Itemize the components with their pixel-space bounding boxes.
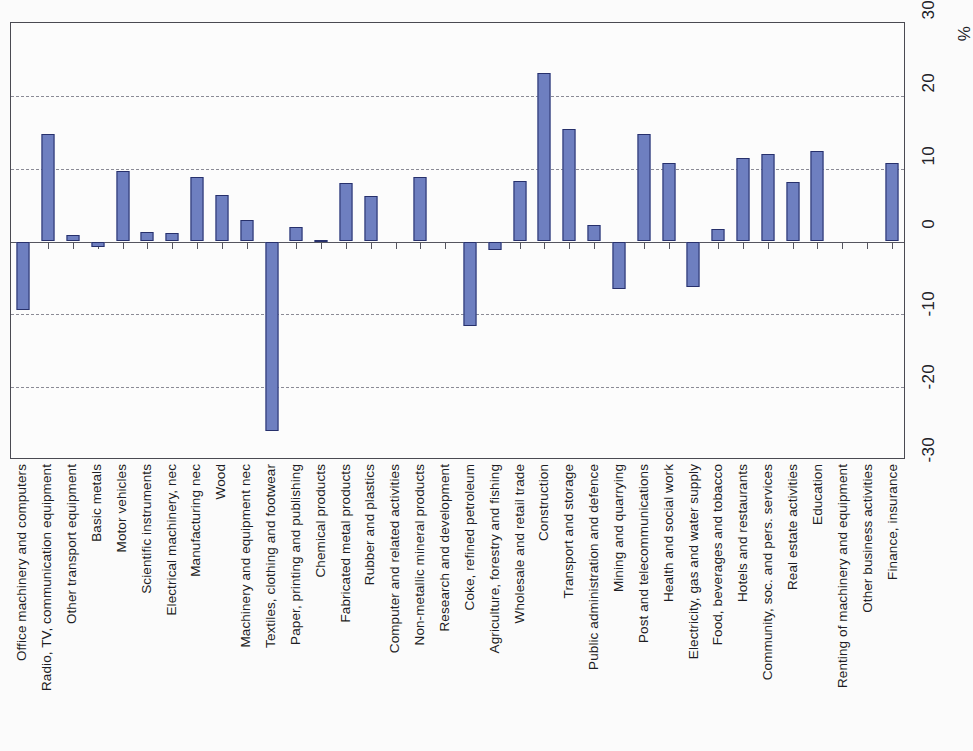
category-label: Transport and storage [563,464,577,598]
bar-slot [160,23,185,458]
x-axis-tick [445,242,446,249]
category-slot: Wood [209,462,234,751]
x-axis-tick [296,242,297,249]
x-axis-category-labels: Office machinery and computersRadio, TV,… [10,462,905,751]
category-label: Motor vehicles [115,464,129,552]
bar-slot [61,23,86,458]
bar [215,195,228,242]
category-slot: Chemical products [308,462,333,751]
bar-slot [408,23,433,458]
category-slot: Paper, printing and publishing [283,462,308,751]
bar-slot [507,23,532,458]
y-tick-label: 10 [919,146,959,166]
category-label: Post and telecommunications [637,464,651,643]
bar [166,233,179,241]
bar-slot [805,23,830,458]
bar-slot [135,23,160,458]
bar-slot [458,23,483,458]
category-label: Public administration and defence [587,464,601,670]
bar-slot [210,23,235,458]
category-label: Wood [215,464,229,499]
category-label: Chemical products [314,464,328,578]
bar [91,242,104,248]
bar [538,73,551,242]
category-slot: Transport and storage [557,462,582,751]
x-axis-tick [867,242,868,249]
x-axis-tick [842,242,843,249]
x-axis-tick [123,242,124,249]
bar [612,242,625,289]
bar-slot [607,23,632,458]
bar [116,171,129,242]
category-slot: Manufacturing nec [184,462,209,751]
category-slot: Finance, insurance [880,462,905,751]
bar [736,158,749,242]
bar [687,242,700,287]
bar [315,240,328,242]
category-slot: Renting of machinery and equipment [830,462,855,751]
category-label: Community, soc. and pers. services [761,464,775,680]
bar [339,183,352,241]
category-slot: Health and social work [656,462,681,751]
category-slot: Education [806,462,831,751]
bar [17,242,30,310]
x-axis-tick [892,242,893,249]
bar-slot [681,23,706,458]
category-slot: Office machinery and computers [10,462,35,751]
chart-plot-area [10,22,905,459]
category-label: Electricity, gas and water supply [687,464,701,659]
bar-slot [284,23,309,458]
bar [414,177,427,241]
x-axis-tick [594,242,595,249]
y-tick-label: -30 [919,437,959,462]
bars-group [11,23,904,458]
category-slot: Public administration and defence [582,462,607,751]
y-axis: % 3020100-10-20-30 [905,22,973,459]
x-axis-tick [48,242,49,249]
x-axis-tick [321,242,322,249]
x-axis-tick [520,242,521,249]
bar-slot [85,23,110,458]
x-axis-tick [73,242,74,249]
bar [67,235,80,242]
bar-slot [706,23,731,458]
category-label: Manufacturing nec [190,464,204,577]
x-axis-tick [544,242,545,249]
category-slot: Textiles, clothing and footwear [259,462,284,751]
bar-slot [334,23,359,458]
category-label: Research and development [438,464,452,632]
category-slot: Research and development [433,462,458,751]
bar [712,229,725,241]
category-slot: Construction [532,462,557,751]
bar-slot [309,23,334,458]
category-label: Construction [538,464,552,541]
category-slot: Real estate activities [781,462,806,751]
bar-slot [557,23,582,458]
bar-slot [631,23,656,458]
category-label: Other transport equipment [65,464,79,624]
category-label: Other business activities [861,464,875,613]
category-label: Office machinery and computers [16,464,30,661]
category-slot: Electricity, gas and water supply [681,462,706,751]
bar [488,242,501,251]
x-axis-tick [817,242,818,249]
bar [811,151,824,241]
bar-slot [110,23,135,458]
category-label: Mining and quarrying [612,464,626,592]
category-label: Health and social work [662,464,676,602]
category-label: Non-metallic mineral products [413,464,427,645]
category-label: Scientific instruments [140,464,154,594]
bar-slot [731,23,756,458]
x-axis-tick [396,242,397,249]
x-axis-tick [569,242,570,249]
bar-slot [433,23,458,458]
bar-slot [855,23,880,458]
category-label: Hotels and restaurants [737,464,751,602]
category-label: Textiles, clothing and footwear [264,464,278,648]
category-slot: Radio, TV, communication equipment [35,462,60,751]
y-axis-unit-label: % [955,26,973,41]
category-slot: Agriculture, forestry and fishing [482,462,507,751]
bar [265,242,278,431]
bar-slot [383,23,408,458]
y-tick-label: 0 [919,219,959,229]
